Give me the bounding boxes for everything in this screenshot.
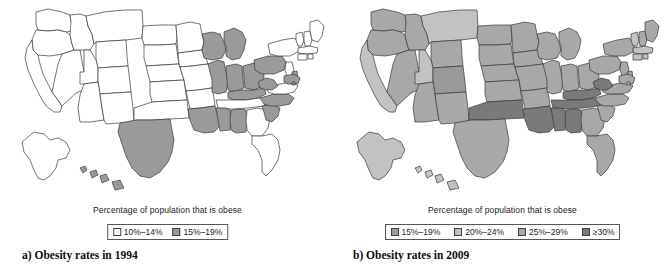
state-ne[interactable] (146, 64, 184, 82)
state-me[interactable] (645, 20, 659, 42)
state-tx[interactable] (453, 119, 509, 178)
legend-item-label: ≥30% (593, 227, 615, 237)
state-ri[interactable] (643, 54, 648, 59)
legend-item[interactable]: 25%–29% (518, 227, 568, 237)
state-nd[interactable] (142, 25, 177, 45)
legend-item-label: 15%–19% (402, 227, 441, 237)
state-hi[interactable] (80, 166, 124, 190)
legend-2009: 15%–19% 20%–24% 25%–29% ≥30% (385, 224, 621, 240)
state-mt[interactable] (421, 10, 478, 44)
legend-title-1994: Percentage of population that is obese (0, 205, 335, 215)
state-mt[interactable] (86, 10, 143, 44)
state-wi[interactable] (202, 32, 226, 60)
state-mn[interactable] (176, 22, 204, 53)
state-nm[interactable] (435, 92, 469, 124)
state-al[interactable] (565, 109, 582, 133)
legend-1994: 10%–14% 15%–19% (107, 224, 229, 240)
legend-swatch-icon (454, 228, 462, 236)
state-ks[interactable] (485, 80, 522, 102)
legend-swatch-icon (173, 228, 181, 236)
legend-item[interactable]: 15%–19% (173, 227, 223, 237)
state-ct[interactable] (633, 54, 642, 60)
us-map-svg-1994 (0, 0, 335, 205)
legend-item-label: 25%–29% (529, 227, 568, 237)
state-nd[interactable] (477, 25, 512, 45)
panel-obesity-1994: Percentage of population that is obese 1… (0, 0, 335, 274)
legend-swatch-icon (582, 228, 590, 236)
state-mn[interactable] (511, 22, 539, 53)
state-ok[interactable] (469, 100, 524, 122)
state-ar[interactable] (186, 88, 215, 109)
state-la[interactable] (188, 106, 220, 133)
state-wy[interactable] (96, 40, 128, 68)
state-tx[interactable] (118, 119, 174, 178)
state-nm[interactable] (100, 92, 134, 124)
state-vt[interactable] (631, 32, 639, 46)
choropleth-map-2009 (335, 0, 670, 205)
state-ne[interactable] (481, 64, 519, 82)
state-wy[interactable] (431, 40, 463, 68)
legend-title-2009: Percentage of population that is obese (335, 205, 670, 215)
legend-item[interactable]: 10%–14% (113, 227, 163, 237)
state-co[interactable] (433, 66, 466, 94)
legend-item[interactable]: ≥30% (582, 227, 615, 237)
state-ri[interactable] (308, 54, 313, 59)
state-tn[interactable] (551, 98, 601, 109)
state-ok[interactable] (134, 100, 189, 122)
state-mi[interactable] (224, 28, 246, 60)
state-ak[interactable] (22, 132, 70, 180)
state-pa[interactable] (589, 56, 621, 74)
state-fl[interactable] (252, 134, 280, 176)
state-ny[interactable] (268, 38, 300, 56)
state-in[interactable] (226, 64, 244, 92)
state-me[interactable] (310, 20, 324, 42)
legend-swatch-icon (518, 228, 526, 236)
state-co[interactable] (98, 66, 131, 94)
legend-swatch-icon (391, 228, 399, 236)
state-ma[interactable] (633, 46, 653, 54)
state-nc[interactable] (595, 94, 629, 106)
state-ny[interactable] (603, 38, 635, 56)
panel-caption-1994: a) Obesity rates in 1994 (22, 249, 138, 261)
obesity-rates-figure: Percentage of population that is obese 1… (0, 0, 670, 274)
state-vt[interactable] (296, 32, 304, 46)
legend-item-label: 20%–24% (465, 227, 504, 237)
state-al[interactable] (230, 109, 247, 133)
state-fl[interactable] (587, 134, 615, 176)
state-mi[interactable] (559, 28, 581, 60)
state-ar[interactable] (521, 88, 550, 109)
panel-caption-2009: b) Obesity rates in 2009 (353, 249, 469, 261)
state-sd[interactable] (479, 44, 514, 66)
state-sd[interactable] (144, 44, 179, 66)
legend-item[interactable]: 20%–24% (454, 227, 504, 237)
state-tn[interactable] (216, 98, 266, 109)
choropleth-map-1994 (0, 0, 335, 205)
state-wa[interactable] (371, 9, 409, 32)
state-pa[interactable] (254, 56, 286, 74)
us-map-svg-2009 (335, 0, 670, 205)
state-dc[interactable] (292, 82, 295, 85)
legend-item[interactable]: 15%–19% (391, 227, 441, 237)
legend-item-label: 15%–19% (184, 227, 223, 237)
state-nc[interactable] (260, 94, 294, 106)
panel-obesity-2009: Percentage of population that is obese 1… (335, 0, 670, 274)
state-wa[interactable] (36, 9, 74, 32)
state-la[interactable] (523, 106, 555, 133)
state-dc[interactable] (627, 82, 630, 85)
state-wi[interactable] (537, 32, 561, 60)
state-ks[interactable] (150, 80, 187, 102)
state-ma[interactable] (298, 46, 318, 54)
state-in[interactable] (561, 64, 579, 92)
state-ct[interactable] (298, 54, 307, 60)
state-hi[interactable] (415, 166, 459, 190)
state-ak[interactable] (357, 132, 405, 180)
legend-swatch-icon (113, 228, 121, 236)
legend-item-label: 10%–14% (124, 227, 163, 237)
